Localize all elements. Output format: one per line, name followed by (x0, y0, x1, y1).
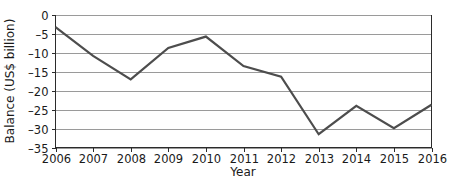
y-tick-label: –30 (28, 123, 48, 137)
line-chart: 0–5–10–15–20–25–30–35 200620072008200920… (0, 0, 449, 183)
x-axis-title: Year (229, 165, 255, 179)
chart-canvas: 0–5–10–15–20–25–30–35 200620072008200920… (0, 0, 449, 183)
x-tick-label: 2016 (418, 152, 447, 166)
x-tick-label: 2010 (192, 152, 221, 166)
y-tick-label: –15 (28, 66, 48, 80)
y-tick-label: –20 (28, 85, 48, 99)
y-tick-label: 0 (41, 9, 48, 23)
x-tick-label: 2007 (79, 152, 108, 166)
y-tick-label: –10 (28, 47, 48, 61)
x-tick-label: 2013 (305, 152, 334, 166)
x-tick-label: 2011 (230, 152, 259, 166)
x-tick-label: 2009 (154, 152, 183, 166)
x-tick-label: 2012 (267, 152, 296, 166)
x-tick-label: 2015 (380, 152, 409, 166)
x-tick-labels: 2006200720082009201020112012201320142015… (42, 152, 447, 166)
x-tick-label: 2006 (42, 152, 71, 166)
y-tick-label: –5 (35, 28, 48, 42)
x-tick-label: 2008 (117, 152, 146, 166)
x-tick-label: 2014 (342, 152, 371, 166)
y-tick-label: –25 (28, 104, 48, 118)
y-axis-title: Balance (US$ billion) (3, 19, 17, 144)
